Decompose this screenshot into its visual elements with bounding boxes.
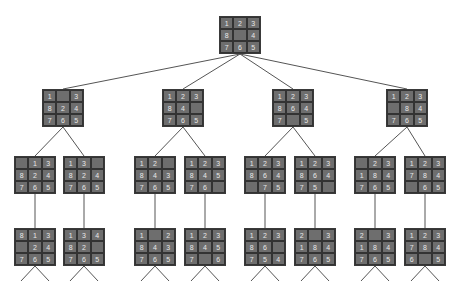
tree-edge	[155, 266, 169, 281]
tree-edge	[63, 54, 240, 89]
blank-tile	[308, 229, 321, 241]
tile: 2	[77, 169, 90, 181]
puzzle-state-n4c: 12843765	[134, 228, 176, 266]
tile: 8	[15, 169, 28, 181]
tile: 4	[91, 229, 104, 241]
tile: 4	[272, 169, 285, 181]
tree-edge	[301, 266, 315, 281]
tile: 5	[162, 253, 175, 265]
tile: 3	[432, 229, 445, 241]
blank-tile	[91, 241, 104, 253]
tile: 6	[28, 253, 41, 265]
blank-tile	[286, 114, 299, 126]
puzzle-state-n3a: 13824765	[14, 156, 56, 194]
tile: 4	[322, 169, 335, 181]
tile: 2	[56, 102, 69, 114]
tile: 4	[148, 241, 161, 253]
puzzle-state-n4h: 12378465	[404, 228, 446, 266]
tile: 6	[77, 253, 90, 265]
tile: 3	[212, 229, 225, 241]
tile: 5	[322, 253, 335, 265]
tile: 7	[387, 114, 400, 126]
tile: 5	[308, 181, 321, 193]
blank-tile	[190, 102, 203, 114]
tile: 2	[418, 157, 431, 169]
tree-edge	[35, 266, 49, 281]
tile: 3	[162, 169, 175, 181]
puzzle-state-n3d: 12384576	[184, 156, 226, 194]
tile: 5	[42, 253, 55, 265]
tile: 6	[212, 253, 225, 265]
tile: 6	[148, 181, 161, 193]
tile: 8	[185, 241, 198, 253]
tree-edge	[141, 266, 155, 281]
puzzle-state-n4b: 13482765	[63, 228, 105, 266]
tile: 3	[42, 229, 55, 241]
tile: 6	[258, 241, 271, 253]
puzzle-state-n2c: 12386475	[272, 89, 314, 127]
tile: 5	[272, 181, 285, 193]
tile: 6	[56, 114, 69, 126]
blank-tile	[148, 229, 161, 241]
tile: 3	[77, 229, 90, 241]
blank-tile	[233, 29, 246, 41]
tile: 8	[368, 241, 381, 253]
tree-edge	[293, 127, 315, 156]
tile: 1	[185, 229, 198, 241]
tile: 3	[272, 229, 285, 241]
tile: 1	[135, 229, 148, 241]
tree-edge	[155, 127, 183, 156]
tile: 8	[220, 29, 233, 41]
tile: 8	[64, 169, 77, 181]
tile: 1	[64, 229, 77, 241]
tile: 6	[405, 253, 418, 265]
tile: 4	[382, 169, 395, 181]
tile: 8	[368, 169, 381, 181]
tile: 2	[233, 17, 246, 29]
tile: 1	[245, 157, 258, 169]
blank-tile	[272, 241, 285, 253]
puzzle-state-n4a: 81324765	[14, 228, 56, 266]
tile: 4	[70, 102, 83, 114]
tile: 4	[198, 169, 211, 181]
tile: 2	[258, 157, 271, 169]
tile: 6	[308, 169, 321, 181]
tile: 1	[295, 157, 308, 169]
blank-tile	[91, 157, 104, 169]
tile: 5	[162, 181, 175, 193]
tile: 2	[308, 157, 321, 169]
tile: 8	[43, 102, 56, 114]
tile: 3	[322, 229, 335, 241]
tile: 7	[15, 253, 28, 265]
blank-tile	[212, 181, 225, 193]
tile: 6	[233, 41, 246, 53]
tile: 4	[432, 169, 445, 181]
tile: 8	[273, 102, 286, 114]
tile: 5	[247, 41, 260, 53]
puzzle-state-n4d: 12384576	[184, 228, 226, 266]
tile: 5	[432, 181, 445, 193]
tile: 3	[247, 17, 260, 29]
blank-tile	[322, 181, 335, 193]
tile: 1	[220, 17, 233, 29]
tile: 4	[198, 241, 211, 253]
tile: 7	[245, 253, 258, 265]
tile: 4	[148, 169, 161, 181]
tile: 2	[148, 157, 161, 169]
tile: 8	[135, 169, 148, 181]
tile: 5	[212, 241, 225, 253]
tile: 2	[258, 229, 271, 241]
puzzle-state-n2d: 12384765	[386, 89, 428, 127]
tile: 3	[414, 90, 427, 102]
tile: 4	[414, 102, 427, 114]
tile: 4	[300, 102, 313, 114]
puzzle-state-n3f: 12386475	[294, 156, 336, 194]
tile: 8	[400, 102, 413, 114]
tile: 8	[135, 241, 148, 253]
tile: 7	[15, 181, 28, 193]
tile: 7	[185, 181, 198, 193]
tile: 5	[212, 169, 225, 181]
tile: 7	[258, 181, 271, 193]
tile: 2	[198, 229, 211, 241]
tile: 1	[355, 241, 368, 253]
